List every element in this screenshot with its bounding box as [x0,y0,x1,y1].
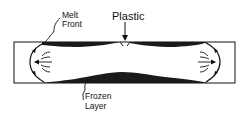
frozen-layer-top-right [130,42,208,47]
gate-notch [120,42,130,46]
frozen-layer-bottom [42,72,208,83]
plastic-label: Plastic [112,10,145,22]
frozen-layer-label-line2: Layer [85,101,106,111]
fountain-flow-diagram: Plastic Melt Front Frozen Layer [0,0,245,119]
plastic-arrow-head [122,35,128,41]
flow-arrow-left-head [34,60,39,65]
frozen-layer-top-left [42,42,120,47]
melt-front-label-line2: Front [62,19,82,29]
melt-front-leader [44,18,60,43]
frozen-layer-label-line1: Frozen [85,91,112,101]
flow-arrow-right-head [211,60,216,65]
